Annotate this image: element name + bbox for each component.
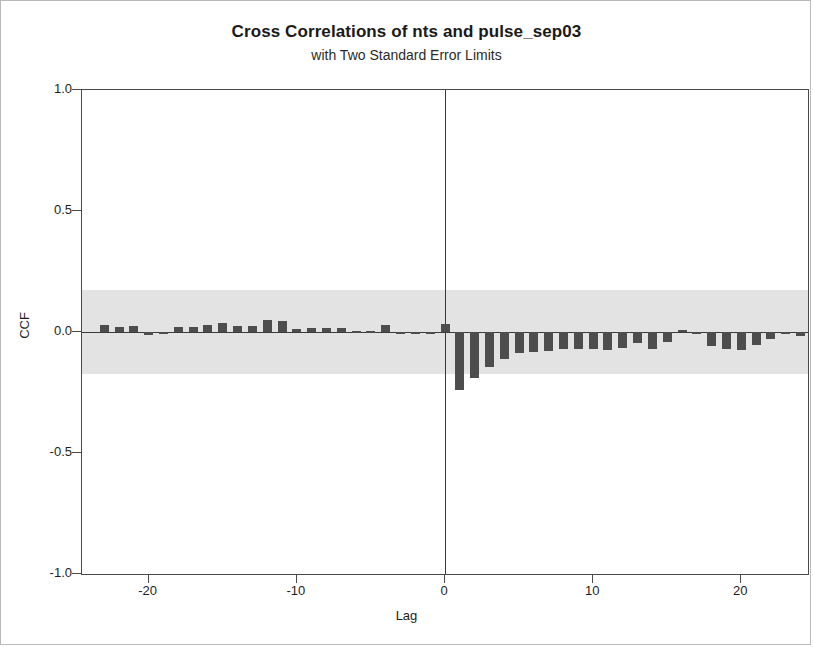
ccf-bar bbox=[307, 328, 316, 332]
ccf-bar bbox=[441, 324, 450, 332]
x-axis-label: Lag bbox=[0, 608, 813, 623]
plot-area bbox=[81, 89, 809, 575]
cross-correlation-chart: Cross Correlations of nts and pulse_sep0… bbox=[0, 0, 813, 647]
ccf-bar bbox=[618, 332, 627, 348]
ccf-bar bbox=[752, 332, 761, 345]
x-axis-tick-label: -10 bbox=[266, 583, 326, 598]
ccf-bar bbox=[633, 332, 642, 343]
x-axis-tick-mark bbox=[740, 574, 741, 583]
ccf-bar bbox=[603, 332, 612, 350]
ccf-bar bbox=[381, 325, 390, 332]
x-axis-tick-mark bbox=[592, 574, 593, 583]
ccf-bar bbox=[159, 332, 168, 334]
ccf-bar bbox=[648, 332, 657, 349]
ccf-bar bbox=[663, 332, 672, 342]
ccf-bar bbox=[115, 327, 124, 332]
ccf-bar bbox=[203, 325, 212, 332]
x-axis-tick-label: 0 bbox=[414, 583, 474, 598]
ccf-bar bbox=[189, 327, 198, 332]
x-axis-tick-mark bbox=[444, 574, 445, 583]
chart-title: Cross Correlations of nts and pulse_sep0… bbox=[0, 22, 813, 42]
y-axis-tick-mark bbox=[72, 452, 81, 453]
ccf-bar bbox=[781, 332, 790, 334]
ccf-bar bbox=[692, 332, 701, 334]
x-axis-tick-label: 20 bbox=[710, 583, 770, 598]
ccf-bar bbox=[263, 320, 272, 332]
ccf-bar bbox=[144, 332, 153, 335]
y-axis-tick-label: -0.5 bbox=[26, 444, 72, 459]
ccf-bar bbox=[396, 332, 405, 334]
ccf-bar bbox=[500, 332, 509, 359]
ccf-bar bbox=[796, 332, 805, 336]
ccf-bar bbox=[129, 326, 138, 332]
ccf-bar bbox=[233, 326, 242, 332]
ccf-bar bbox=[678, 330, 687, 332]
ccf-bar bbox=[337, 328, 346, 332]
y-axis-tick-mark bbox=[72, 210, 81, 211]
ccf-bar bbox=[426, 332, 435, 334]
x-axis-tick-label: -20 bbox=[118, 583, 178, 598]
ccf-bar bbox=[737, 332, 746, 350]
ccf-bar bbox=[322, 328, 331, 332]
ccf-bar bbox=[766, 332, 775, 339]
ccf-bar bbox=[485, 332, 494, 367]
ccf-bar bbox=[589, 332, 598, 349]
ccf-bar bbox=[515, 332, 524, 353]
y-axis-tick-label: -1.0 bbox=[26, 565, 72, 580]
y-axis-tick-label: 0.0 bbox=[26, 323, 72, 338]
ccf-bar bbox=[352, 331, 361, 333]
chart-subtitle: with Two Standard Error Limits bbox=[0, 47, 813, 63]
ccf-bar bbox=[559, 332, 568, 349]
ccf-bar bbox=[292, 329, 301, 332]
ccf-bar bbox=[574, 332, 583, 349]
ccf-bar bbox=[707, 332, 716, 346]
ccf-bar bbox=[529, 332, 538, 352]
lag-zero-reference-line bbox=[445, 90, 446, 574]
ccf-bar bbox=[455, 332, 464, 390]
x-axis-tick-mark bbox=[296, 574, 297, 583]
y-axis-tick-label: 1.0 bbox=[26, 81, 72, 96]
ccf-bar bbox=[174, 327, 183, 332]
x-axis-tick-mark bbox=[148, 574, 149, 583]
ccf-bar bbox=[544, 332, 553, 351]
ccf-bar bbox=[366, 331, 375, 333]
y-axis-tick-mark bbox=[72, 573, 81, 574]
ccf-bar bbox=[411, 332, 420, 334]
x-axis-tick-label: 10 bbox=[562, 583, 622, 598]
y-axis-tick-label: 0.5 bbox=[26, 202, 72, 217]
ccf-bar bbox=[248, 326, 257, 332]
ccf-bar bbox=[470, 332, 479, 378]
y-axis-tick-mark bbox=[72, 331, 81, 332]
ccf-bar bbox=[722, 332, 731, 349]
ccf-bar bbox=[278, 321, 287, 332]
ccf-bar bbox=[100, 325, 109, 332]
y-axis-tick-mark bbox=[72, 89, 81, 90]
ccf-bar bbox=[218, 323, 227, 332]
